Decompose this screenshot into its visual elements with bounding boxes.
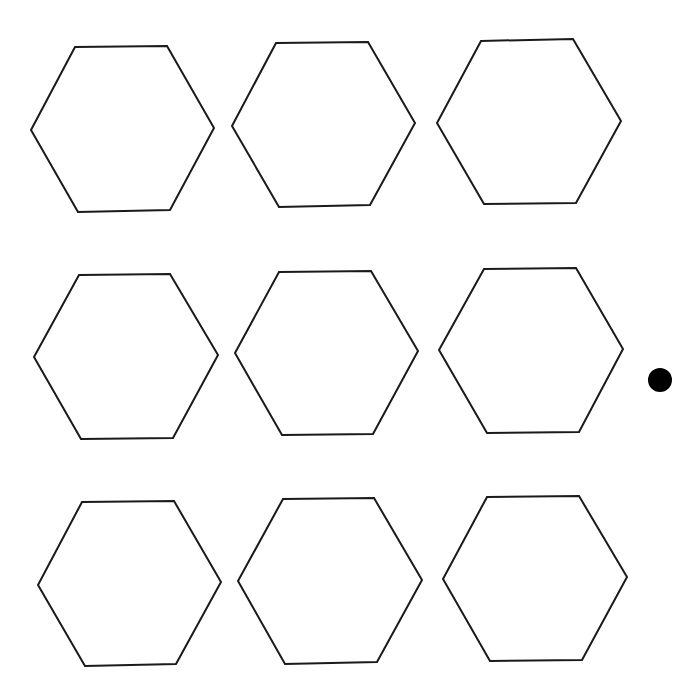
hexagon-r3-c1 xyxy=(38,501,221,666)
hexagon-r1-c3 xyxy=(437,39,621,204)
hexagon-r2-c2 xyxy=(235,271,418,435)
hexagon-grid-diagram xyxy=(0,0,691,699)
hexagon-group xyxy=(31,39,627,666)
marker-dot xyxy=(648,368,672,392)
hexagon-r2-c1 xyxy=(34,274,218,439)
hexagon-r1-c2 xyxy=(232,42,415,207)
hexagon-r2-c3 xyxy=(439,268,623,433)
hexagon-r3-c2 xyxy=(238,498,422,664)
hexagon-r3-c3 xyxy=(443,496,627,661)
hexagon-r1-c1 xyxy=(31,46,214,212)
